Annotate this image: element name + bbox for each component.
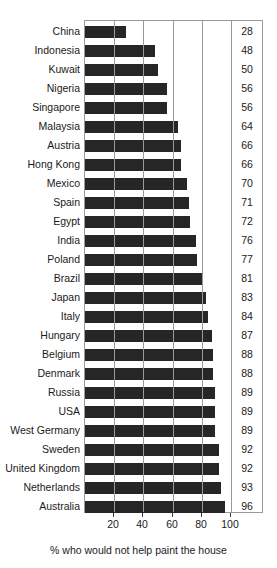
- value-label: 70: [231, 174, 263, 193]
- value-label: 50: [231, 60, 263, 79]
- bar: [85, 387, 215, 399]
- x-tick: [113, 513, 114, 517]
- category-label: Indonesia: [0, 41, 80, 60]
- category-label: Mexico: [0, 174, 80, 193]
- value-label: 64: [231, 117, 263, 136]
- bar: [85, 501, 225, 513]
- bar: [85, 235, 196, 247]
- value-label: 81: [231, 269, 263, 288]
- bar: [85, 121, 178, 133]
- value-label: 66: [231, 136, 263, 155]
- bar: [85, 102, 167, 114]
- x-axis-label: % who would not help paint the house: [0, 544, 277, 556]
- category-label: West Germany: [0, 421, 80, 440]
- bar: [85, 406, 215, 418]
- value-label: 88: [231, 345, 263, 364]
- category-label: Sweden: [0, 440, 80, 459]
- value-label: 83: [231, 288, 263, 307]
- category-label: Brazil: [0, 269, 80, 288]
- value-column: 2848505656646666707172767781838487888889…: [231, 20, 263, 513]
- category-label: Egypt: [0, 212, 80, 231]
- bar: [85, 444, 219, 456]
- x-tick-label: 20: [98, 518, 128, 530]
- value-label: 76: [231, 231, 263, 250]
- value-label: 92: [231, 459, 263, 478]
- value-label: 77: [231, 250, 263, 269]
- value-label: 89: [231, 402, 263, 421]
- x-tick-label: 80: [186, 518, 216, 530]
- gridline-60: [173, 21, 174, 512]
- category-label: USA: [0, 402, 80, 421]
- bar: [85, 311, 208, 323]
- category-label: Kuwait: [0, 60, 80, 79]
- value-label: 89: [231, 383, 263, 402]
- bar: [85, 140, 181, 152]
- bar: [85, 292, 206, 304]
- x-tick-label: 40: [127, 518, 157, 530]
- value-label: 92: [231, 440, 263, 459]
- category-label: India: [0, 231, 80, 250]
- bar: [85, 482, 221, 494]
- category-label: Spain: [0, 193, 80, 212]
- bar: [85, 330, 212, 342]
- value-label: 71: [231, 193, 263, 212]
- bar-chart: ChinaIndonesiaKuwaitNigeriaSingaporeMala…: [0, 0, 277, 568]
- category-label: United Kingdom: [0, 459, 80, 478]
- category-label: Belgium: [0, 345, 80, 364]
- value-label: 56: [231, 98, 263, 117]
- x-axis: 20406080100: [84, 513, 263, 543]
- x-tick: [142, 513, 143, 517]
- category-label: Australia: [0, 497, 80, 516]
- x-tick: [230, 513, 231, 517]
- category-label: Nigeria: [0, 79, 80, 98]
- category-label: Hungary: [0, 326, 80, 345]
- bar: [85, 216, 190, 228]
- category-label: Japan: [0, 288, 80, 307]
- gridline-40: [143, 21, 144, 512]
- gridline-80: [202, 21, 203, 512]
- x-tick: [201, 513, 202, 517]
- category-label: Austria: [0, 136, 80, 155]
- category-label: Hong Kong: [0, 155, 80, 174]
- value-label: 89: [231, 421, 263, 440]
- bar: [85, 273, 203, 285]
- value-label: 66: [231, 155, 263, 174]
- bar: [85, 349, 213, 361]
- x-tick: [172, 513, 173, 517]
- category-label: Denmark: [0, 364, 80, 383]
- x-tick-label: 100: [215, 518, 245, 530]
- bar: [85, 254, 197, 266]
- bar: [85, 178, 187, 190]
- value-label: 48: [231, 41, 263, 60]
- category-label: Italy: [0, 307, 80, 326]
- value-label: 88: [231, 364, 263, 383]
- category-label: Singapore: [0, 98, 80, 117]
- gridline-20: [114, 21, 115, 512]
- value-label: 84: [231, 307, 263, 326]
- bar: [85, 368, 213, 380]
- x-tick-label: 60: [157, 518, 187, 530]
- category-label: Russia: [0, 383, 80, 402]
- value-label: 72: [231, 212, 263, 231]
- bar: [85, 64, 158, 76]
- value-label: 56: [231, 79, 263, 98]
- bar: [85, 83, 167, 95]
- bar: [85, 159, 181, 171]
- category-label: Poland: [0, 250, 80, 269]
- bar: [85, 463, 219, 475]
- value-label: 28: [231, 22, 263, 41]
- bar: [85, 26, 126, 38]
- category-axis-labels: ChinaIndonesiaKuwaitNigeriaSingaporeMala…: [0, 20, 80, 513]
- category-label: Malaysia: [0, 117, 80, 136]
- bar: [85, 45, 155, 57]
- category-label: Netherlands: [0, 478, 80, 497]
- value-label: 87: [231, 326, 263, 345]
- bar: [85, 425, 215, 437]
- category-label: China: [0, 22, 80, 41]
- value-label: 93: [231, 478, 263, 497]
